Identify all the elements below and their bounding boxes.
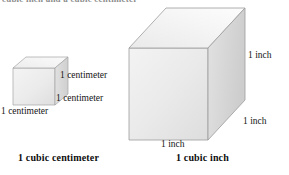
large-cube-caption: 1 cubic inch <box>176 153 229 163</box>
small-cube-depth-label: 1 centimeter <box>56 94 103 104</box>
large-cube-diagram <box>120 0 255 148</box>
figure-canvas: cubic inch and a cubic centimeter 1 cent… <box>0 0 289 175</box>
small-cube-width-label: 1 centimeter <box>1 107 48 117</box>
large-cube-front-face <box>129 48 208 140</box>
small-cube-caption: 1 cubic centimeter <box>18 153 99 163</box>
small-cube-height-label: 1 centimeter <box>60 71 107 81</box>
clipped-heading-text: cubic inch and a cubic centimeter <box>2 0 137 4</box>
small-cube-front-face <box>13 68 55 105</box>
large-cube-height-label: 1 inch <box>248 51 271 61</box>
large-cube-width-label: 1 inch <box>161 140 184 150</box>
large-cube-depth-label: 1 inch <box>243 117 266 127</box>
